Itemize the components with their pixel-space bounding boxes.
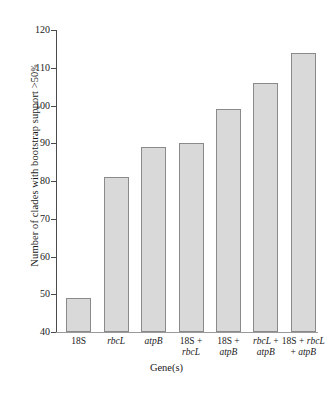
x-label-6: 18S + rbcL+ atpB <box>269 336 333 358</box>
bar-2 <box>141 147 166 332</box>
y-axis-tick-labels: 405060708090100110120 <box>12 30 50 333</box>
x-label-6-line-0: 18S + rbcL <box>269 336 333 347</box>
y-tick-label-50: 50 <box>16 289 50 299</box>
bar-1 <box>104 177 129 332</box>
x-axis-title: Gene(s) <box>0 362 333 373</box>
bar-series <box>56 30 318 333</box>
bar-4 <box>216 109 241 332</box>
bar-3 <box>179 143 204 332</box>
y-tick-label-90: 90 <box>16 138 50 148</box>
bar-6 <box>291 53 316 332</box>
bar-5 <box>253 83 278 332</box>
bar-0 <box>66 298 91 332</box>
y-tick-label-100: 100 <box>16 101 50 111</box>
y-tick-label-60: 60 <box>16 252 50 262</box>
x-label-6-line-1: + atpB <box>269 347 333 358</box>
y-tick-label-120: 120 <box>16 25 50 35</box>
y-tick-label-70: 70 <box>16 214 50 224</box>
y-tick-label-110: 110 <box>16 63 50 73</box>
plot-area <box>56 30 318 333</box>
bar-chart-figure: Number of clades with bootstrap support … <box>0 0 333 395</box>
y-tick-label-80: 80 <box>16 176 50 186</box>
